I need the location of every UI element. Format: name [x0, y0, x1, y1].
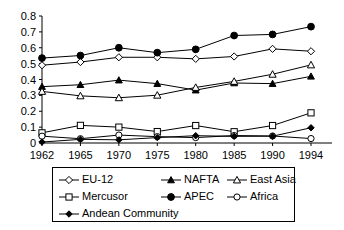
marker-filled-circle [168, 193, 175, 200]
marker-open-diamond [307, 48, 314, 55]
y-axis-tick-label: 0.3 [21, 89, 36, 101]
marker-shape [308, 73, 315, 79]
marker-shape [39, 55, 46, 62]
marker-filled-circle [39, 55, 46, 62]
marker-shape [115, 77, 122, 83]
marker-shape [193, 122, 199, 128]
marker-filled-circle [269, 31, 276, 38]
legend-item-apec[interactable]: APEC [161, 188, 214, 205]
legend-label: Andean Community [82, 208, 179, 219]
marker-filled-circle [154, 49, 161, 56]
marker-filled-circle [115, 44, 122, 51]
marker-open-diamond [65, 176, 72, 183]
marker-shape [308, 135, 314, 141]
x-axis-tick-label: 1962 [30, 149, 54, 161]
marker-shape [115, 44, 122, 51]
y-axis-tick-label: 0.8 [21, 10, 36, 22]
marker-open-square [193, 122, 199, 128]
axis-lines-group [42, 16, 332, 143]
legend-item-nafta[interactable]: NAFTA [161, 171, 219, 188]
legend-marker-open-triangle-icon [227, 174, 247, 186]
legend-marker-filled-circle-icon [161, 191, 181, 203]
marker-shape [38, 62, 45, 69]
marker-shape [269, 122, 275, 128]
marker-shape [65, 176, 72, 183]
legend-row: EU-12NAFTAEast Asia [53, 171, 294, 188]
y-axis-tick-label: 0.1 [21, 121, 36, 133]
y-axis-tick-group: 00.10.20.30.40.50.60.70.8 [21, 10, 42, 149]
marker-shape [308, 125, 314, 131]
marker-filled-circle [192, 46, 199, 53]
marker-open-square [66, 193, 72, 199]
y-axis-tick-label: 0.5 [21, 58, 36, 70]
marker-open-square [116, 124, 122, 130]
marker-small-filled-diamond [66, 210, 72, 216]
marker-shape [269, 45, 276, 52]
marker-open-diamond [38, 62, 45, 69]
series-line [42, 65, 311, 98]
series-apec [39, 23, 315, 61]
y-axis-tick-label: 0.2 [21, 105, 36, 117]
marker-shape [77, 52, 84, 59]
x-axis-tick-label: 1980 [183, 149, 207, 161]
marker-shape [154, 49, 161, 56]
marker-shape [231, 53, 238, 60]
legend-item-andean-community[interactable]: Andean Community [59, 205, 179, 222]
marker-filled-circle [308, 23, 315, 30]
y-axis-tick-label: 0.7 [21, 26, 36, 38]
marker-open-square [77, 122, 83, 128]
marker-small-filled-diamond [308, 125, 314, 131]
legend-marker-open-circle-icon [227, 191, 247, 203]
legend-label: Mercusor [82, 191, 128, 202]
legend-item-east-asia[interactable]: East Asia [227, 171, 296, 188]
legend-label: NAFTA [184, 174, 219, 185]
marker-shape [168, 193, 175, 200]
marker-small-filled-diamond [39, 139, 45, 145]
marker-shape [116, 124, 122, 130]
legend-marker-filled-triangle-icon [161, 174, 181, 186]
marker-shape [77, 58, 84, 65]
legend-item-africa[interactable]: Africa [227, 188, 278, 205]
marker-filled-triangle [115, 77, 122, 83]
marker-shape [192, 55, 199, 62]
x-axis-tick-group: 19621965197019751980198519901994 [30, 143, 323, 161]
marker-shape [308, 23, 315, 30]
x-axis-tick-label: 1985 [222, 149, 246, 161]
marker-shape [115, 54, 122, 61]
marker-shape [66, 193, 72, 199]
marker-open-circle [308, 135, 314, 141]
marker-shape [307, 61, 314, 68]
marker-shape [269, 31, 276, 38]
y-axis-tick-label: 0.4 [21, 74, 36, 86]
marker-shape [66, 210, 72, 216]
x-axis-tick-label: 1994 [299, 149, 323, 161]
marker-filled-triangle [308, 73, 315, 79]
data-series-group [38, 23, 314, 145]
chart-container: 00.10.20.30.40.50.60.70.8 19621965197019… [0, 0, 344, 230]
legend-marker-open-square-icon [59, 191, 79, 203]
legend-label: APEC [184, 191, 214, 202]
x-axis-tick-label: 1975 [145, 149, 169, 161]
marker-open-square [269, 122, 275, 128]
marker-shape [307, 48, 314, 55]
legend-row: MercusorAPECAfrica [53, 188, 294, 205]
legend-label: East Asia [250, 174, 296, 185]
marker-shape [308, 110, 314, 116]
marker-open-diamond [115, 54, 122, 61]
legend-item-eu-12[interactable]: EU-12 [59, 171, 113, 188]
marker-filled-circle [77, 52, 84, 59]
legend-label: EU-12 [82, 174, 113, 185]
legend-marker-open-diamond-icon [59, 174, 79, 186]
y-axis-tick-label: 0 [30, 137, 36, 149]
marker-open-diamond [231, 53, 238, 60]
legend-row: Andean Community [53, 205, 294, 222]
x-axis-tick-label: 1970 [107, 149, 131, 161]
legend-item-mercusor[interactable]: Mercusor [59, 188, 128, 205]
marker-shape [234, 193, 240, 199]
x-axis-tick-label: 1990 [260, 149, 284, 161]
series-mercusor [39, 110, 314, 136]
marker-open-triangle [307, 61, 314, 68]
marker-open-circle [234, 193, 240, 199]
marker-shape [77, 122, 83, 128]
marker-open-diamond [269, 45, 276, 52]
